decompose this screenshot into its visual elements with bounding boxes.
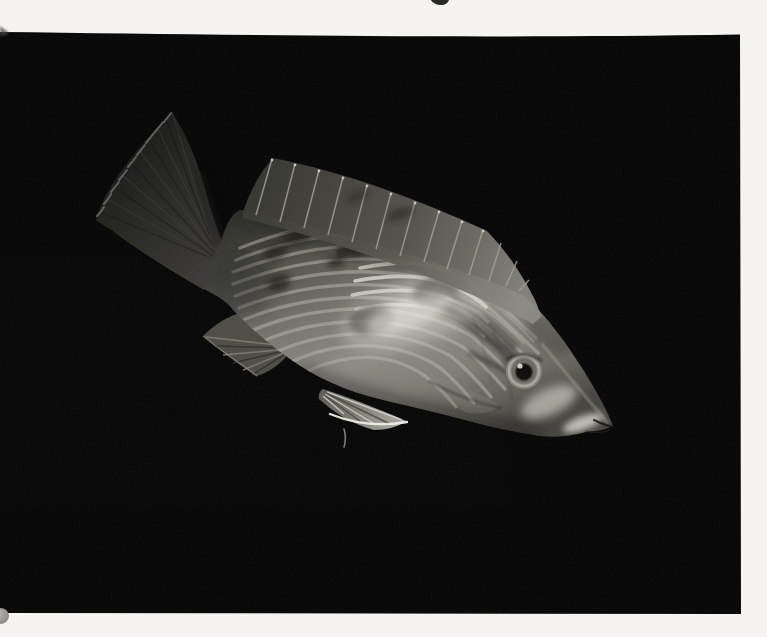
scanned-photo-page: [0, 0, 767, 637]
fish-photograph: [0, 0, 767, 637]
fish: [0, 30, 742, 616]
photo-grain: [0, 30, 742, 616]
